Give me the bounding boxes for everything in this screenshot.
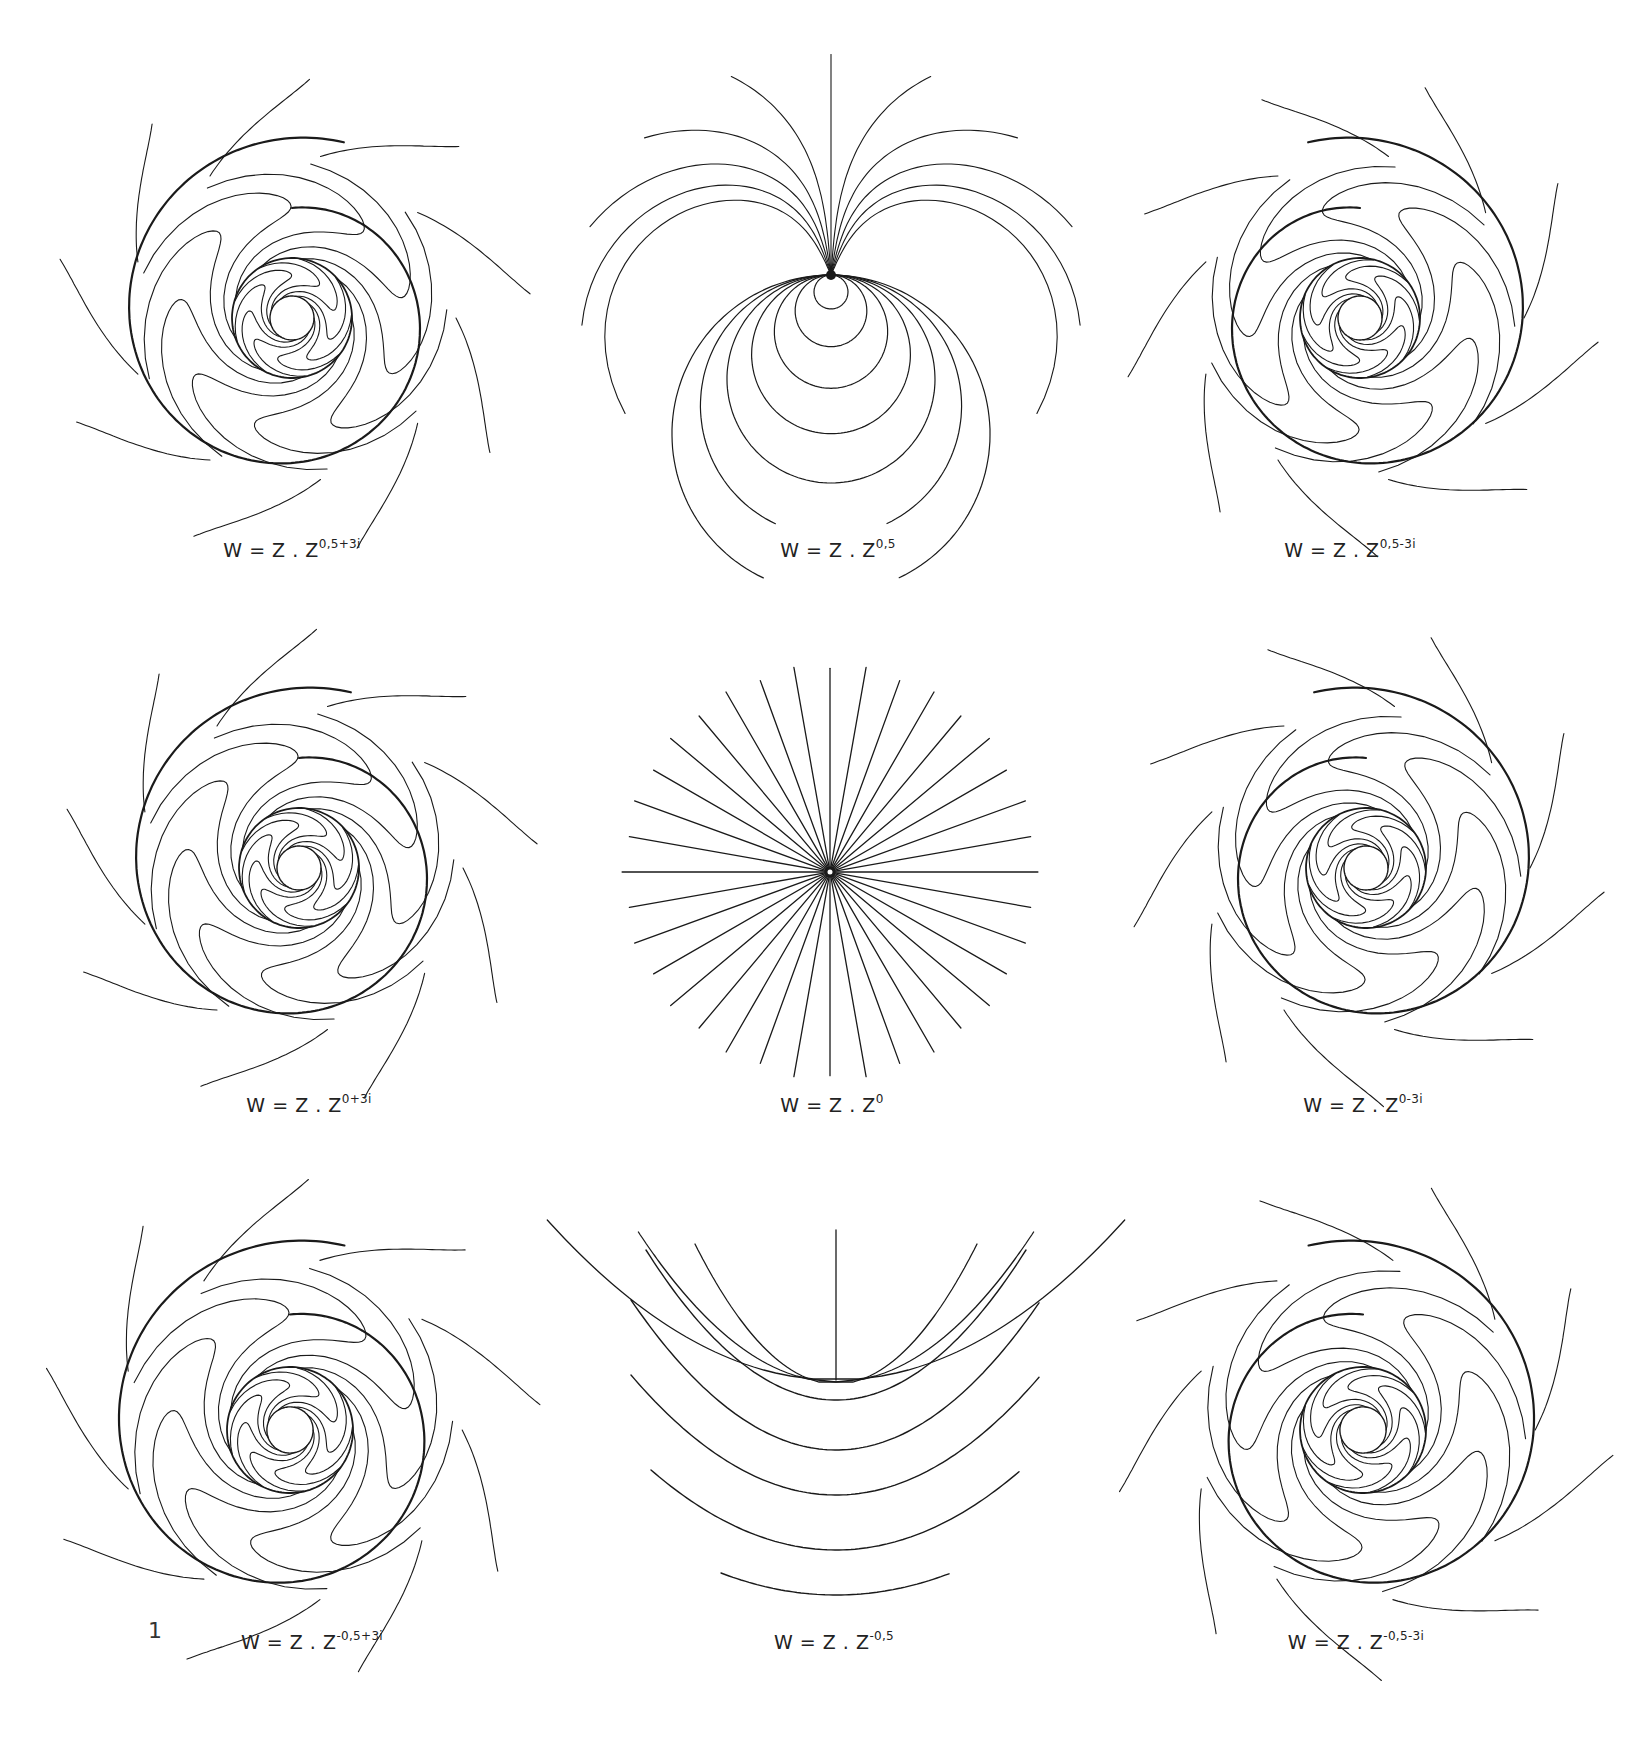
curve-family-figure: W = Z . Z0,5+3iW = Z . Z0,5W = Z . Z0,5-… (0, 0, 1647, 1761)
curve (1367, 1408, 1419, 1473)
curve (1348, 1376, 1413, 1431)
curve (1324, 1288, 1494, 1430)
caption-exponent: -0,5-3i (1383, 1629, 1424, 1643)
curve (1260, 1201, 1393, 1261)
panel-caption: W = Z . Z-0,5-3i (1288, 1631, 1424, 1653)
curve (1431, 1188, 1495, 1319)
curve (1277, 1579, 1382, 1680)
curve (1535, 1289, 1571, 1430)
curve (1495, 1455, 1613, 1540)
curve (1340, 1407, 1386, 1453)
curve (1329, 1438, 1392, 1488)
curve (1393, 1600, 1538, 1611)
figure-number: 1 (148, 1618, 162, 1643)
curve (1120, 1371, 1202, 1492)
curve (1207, 1409, 1362, 1562)
curve (1404, 1315, 1526, 1471)
curve (1374, 1372, 1510, 1542)
curve (1137, 1281, 1277, 1321)
curve (1199, 1489, 1216, 1634)
curve-plot (0, 0, 1647, 1761)
caption-base: W = Z . Z (1288, 1631, 1383, 1653)
curve (1352, 1438, 1411, 1492)
